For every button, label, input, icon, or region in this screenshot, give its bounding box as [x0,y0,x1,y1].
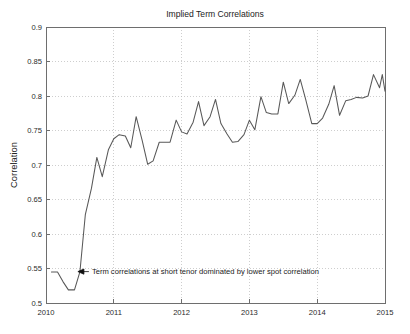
y-tick-label: 0.85 [27,57,42,66]
x-tick-label: 2012 [173,308,190,317]
x-tick-label: 2010 [38,308,55,317]
y-tick-label: 0.7 [31,161,42,170]
x-tick-label: 2013 [241,308,258,317]
y-tick-label: 0.75 [27,126,42,135]
chart-canvas: 0.50.550.60.650.70.750.80.850.9 20102011… [0,0,410,334]
y-tick-label: 0.55 [27,264,42,273]
annotation-label: Term correlations at short tenor dominat… [92,267,319,276]
y-tick-label: 0.6 [31,230,42,239]
y-axis-title: Correlation [8,142,19,188]
y-tick-label: 0.9 [31,23,42,32]
y-tick-label: 0.8 [31,92,42,101]
y-tick-label: 0.5 [31,299,42,308]
y-tick-label: 0.65 [27,195,42,204]
x-tick-label: 2014 [309,308,326,317]
x-tick-label: 2015 [377,308,394,317]
annotation-group: Term correlations at short tenor dominat… [78,267,319,276]
x-tick-label: 2011 [106,308,122,317]
figure-container: 0.50.550.60.650.70.750.80.850.9 20102011… [0,0,410,334]
chart-title: Implied Term Correlations [166,9,264,19]
